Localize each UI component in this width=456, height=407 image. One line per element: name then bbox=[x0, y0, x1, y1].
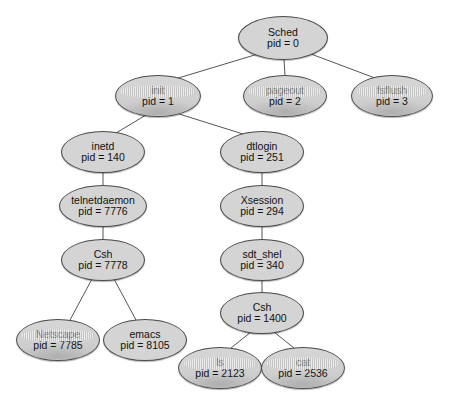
process-node-csh1400[interactable]: Cshpid = 1400 bbox=[220, 292, 304, 334]
process-pid: pid = 0 bbox=[267, 38, 299, 49]
process-node-pageout[interactable]: pageoutpid = 2 bbox=[243, 75, 327, 117]
process-name: Netscape bbox=[36, 329, 80, 340]
process-pid: pid = 1400 bbox=[237, 313, 286, 324]
process-name: cat bbox=[296, 357, 310, 368]
process-node-inetd[interactable]: inetdpid = 140 bbox=[61, 131, 145, 173]
process-pid: pid = 340 bbox=[240, 260, 284, 271]
process-pid: pid = 7785 bbox=[33, 340, 82, 351]
edge-init-to-dtlogin bbox=[176, 113, 243, 134]
process-node-xsession[interactable]: Xsessionpid = 294 bbox=[220, 185, 304, 227]
edge-sched-to-init bbox=[175, 54, 258, 79]
process-node-netscape[interactable]: Netscapepid = 7785 bbox=[16, 319, 100, 361]
process-pid: pid = 3 bbox=[376, 96, 408, 107]
process-node-sched[interactable]: Schedpid = 0 bbox=[238, 16, 328, 60]
process-pid: pid = 251 bbox=[240, 152, 284, 163]
edge-csh1400-to-ls bbox=[231, 332, 251, 348]
process-node-init[interactable]: initpid = 1 bbox=[115, 75, 201, 117]
process-pid: pid = 7776 bbox=[78, 206, 127, 217]
edge-init-to-inetd bbox=[116, 115, 146, 133]
process-node-emacs[interactable]: emacspid = 8105 bbox=[103, 319, 187, 361]
edge-sched-to-pageout bbox=[284, 60, 285, 75]
process-name: pageout bbox=[266, 85, 304, 96]
process-node-dtlogin[interactable]: dtloginpid = 251 bbox=[220, 131, 304, 173]
process-node-fsflush[interactable]: fsflushpid = 3 bbox=[351, 75, 433, 117]
process-pid: pid = 2 bbox=[269, 96, 301, 107]
process-tree-diagram: Schedpid = 0initpid = 1pageoutpid = 2fsf… bbox=[0, 0, 456, 407]
process-pid: pid = 1 bbox=[142, 96, 174, 107]
edge-csh7778-to-netscape bbox=[70, 279, 92, 320]
process-pid: pid = 7778 bbox=[78, 260, 127, 271]
process-pid: pid = 2536 bbox=[278, 368, 327, 379]
process-node-telnetdaemon[interactable]: telnetdaemonpid = 7776 bbox=[59, 185, 147, 227]
process-pid: pid = 8105 bbox=[120, 340, 169, 351]
process-node-sdt_shel[interactable]: sdt_shelpid = 340 bbox=[220, 239, 304, 281]
process-node-cat[interactable]: catpid = 2536 bbox=[261, 347, 345, 389]
process-pid: pid = 2123 bbox=[195, 368, 244, 379]
process-name: ls bbox=[216, 357, 224, 368]
edge-csh7778-to-emacs bbox=[114, 279, 136, 320]
edge-sched-to-fsflush bbox=[311, 54, 375, 78]
process-node-ls[interactable]: lspid = 2123 bbox=[178, 347, 262, 389]
process-node-csh7778[interactable]: Cshpid = 7778 bbox=[61, 239, 145, 281]
edge-csh1400-to-cat bbox=[274, 332, 294, 348]
process-name: init bbox=[151, 85, 164, 96]
process-pid: pid = 140 bbox=[81, 152, 125, 163]
process-pid: pid = 294 bbox=[240, 206, 284, 217]
process-name: fsflush bbox=[377, 85, 407, 96]
